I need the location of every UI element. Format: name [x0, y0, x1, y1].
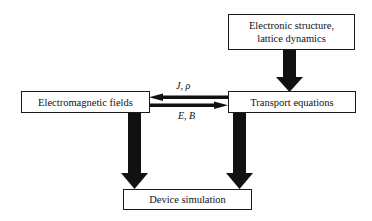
arrow-transport-to-em-fields — [149, 94, 228, 102]
node-device-simulation: Device simulation — [123, 189, 252, 210]
node-electronic-line1: Electronic structure, — [249, 19, 334, 32]
arrow-em-fields-to-transport — [149, 102, 228, 110]
node-electronic-line2: lattice dynamics — [249, 32, 334, 45]
node-em-fields-label: Electromagnetic fields — [38, 96, 133, 109]
arrow-em-fields-to-device — [121, 113, 148, 189]
node-transport-equations: Transport equations — [228, 91, 356, 113]
arrow-electronic-to-transport — [276, 49, 303, 92]
node-device-label: Device simulation — [149, 193, 226, 206]
node-electronic-structure: Electronic structure, lattice dynamics — [228, 14, 355, 50]
edge-label-e-b: E, B — [178, 110, 195, 121]
node-electromagnetic-fields: Electromagnetic fields — [21, 91, 150, 113]
node-transport-label: Transport equations — [250, 96, 333, 109]
arrow-transport-to-device — [226, 113, 253, 189]
edge-label-j-rho: J, ρ — [176, 80, 190, 91]
